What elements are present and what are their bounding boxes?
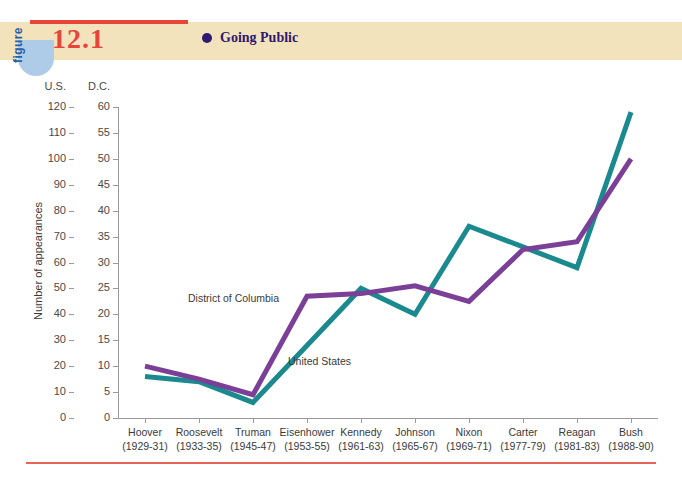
y-tick-mark	[69, 288, 74, 289]
x-tick-mark	[361, 418, 362, 423]
x-tick-years: (1988-90)	[588, 439, 674, 453]
y-tick-mark	[69, 340, 74, 341]
y-axis-us-header: U.S.	[38, 80, 66, 92]
y-tick-label: 20	[38, 359, 66, 371]
series-line-united-states	[145, 112, 631, 402]
y-tick-mark	[69, 159, 74, 160]
y-tick-mark	[69, 366, 74, 367]
x-tick-mark	[577, 418, 578, 423]
y-tick-mark	[69, 418, 74, 419]
annotation-district-of-columbia: District of Columbia	[188, 292, 279, 304]
y-tick-mark	[69, 314, 74, 315]
y-tick-label: 70	[38, 230, 66, 242]
y-tick-label: 30	[38, 333, 66, 345]
y-tick-label: 15	[82, 333, 110, 345]
x-tick-mark	[469, 418, 470, 423]
x-tick-mark	[145, 418, 146, 423]
x-tick-mark	[253, 418, 254, 423]
x-tick-mark	[631, 418, 632, 423]
y-tick-label: 45	[82, 178, 110, 190]
y-tick-label: 30	[82, 256, 110, 268]
x-tick-mark	[415, 418, 416, 423]
x-tick-president: Bush	[588, 425, 674, 439]
y-tick-mark	[69, 211, 74, 212]
y-axis-dc-header: D.C.	[84, 80, 110, 92]
y-tick-label: 120	[38, 100, 66, 112]
y-tick-label: 50	[82, 152, 110, 164]
y-tick-label: 100	[38, 152, 66, 164]
y-tick-label: 0	[82, 411, 110, 423]
y-tick-label: 40	[38, 307, 66, 319]
y-tick-label: 35	[82, 230, 110, 242]
y-tick-label: 25	[82, 281, 110, 293]
y-tick-label: 5	[82, 385, 110, 397]
chart-area: Number of appearances U.S. D.C. 01020304…	[0, 0, 682, 479]
footer-rule	[26, 462, 656, 464]
series-line-district-of-columbia	[145, 159, 631, 395]
y-tick-mark	[69, 237, 74, 238]
y-tick-label: 60	[82, 100, 110, 112]
x-tick-mark	[523, 418, 524, 423]
x-tick-label: Bush(1988-90)	[588, 425, 674, 453]
y-tick-label: 0	[38, 411, 66, 423]
annotation-united-states: United States	[288, 355, 351, 367]
y-tick-label: 20	[82, 307, 110, 319]
y-tick-label: 40	[82, 204, 110, 216]
y-axis-line	[118, 107, 119, 418]
y-tick-mark	[69, 185, 74, 186]
y-tick-label: 10	[38, 385, 66, 397]
y-tick-mark	[69, 392, 74, 393]
y-tick-label: 80	[38, 204, 66, 216]
y-tick-label: 10	[82, 359, 110, 371]
y-tick-label: 110	[38, 126, 66, 138]
y-tick-label: 55	[82, 126, 110, 138]
y-tick-mark	[69, 133, 74, 134]
x-tick-mark	[199, 418, 200, 423]
x-tick-mark	[307, 418, 308, 423]
y-tick-label: 90	[38, 178, 66, 190]
y-tick-label: 50	[38, 281, 66, 293]
y-tick-label: 60	[38, 256, 66, 268]
y-tick-mark	[69, 107, 74, 108]
y-tick-mark	[69, 263, 74, 264]
